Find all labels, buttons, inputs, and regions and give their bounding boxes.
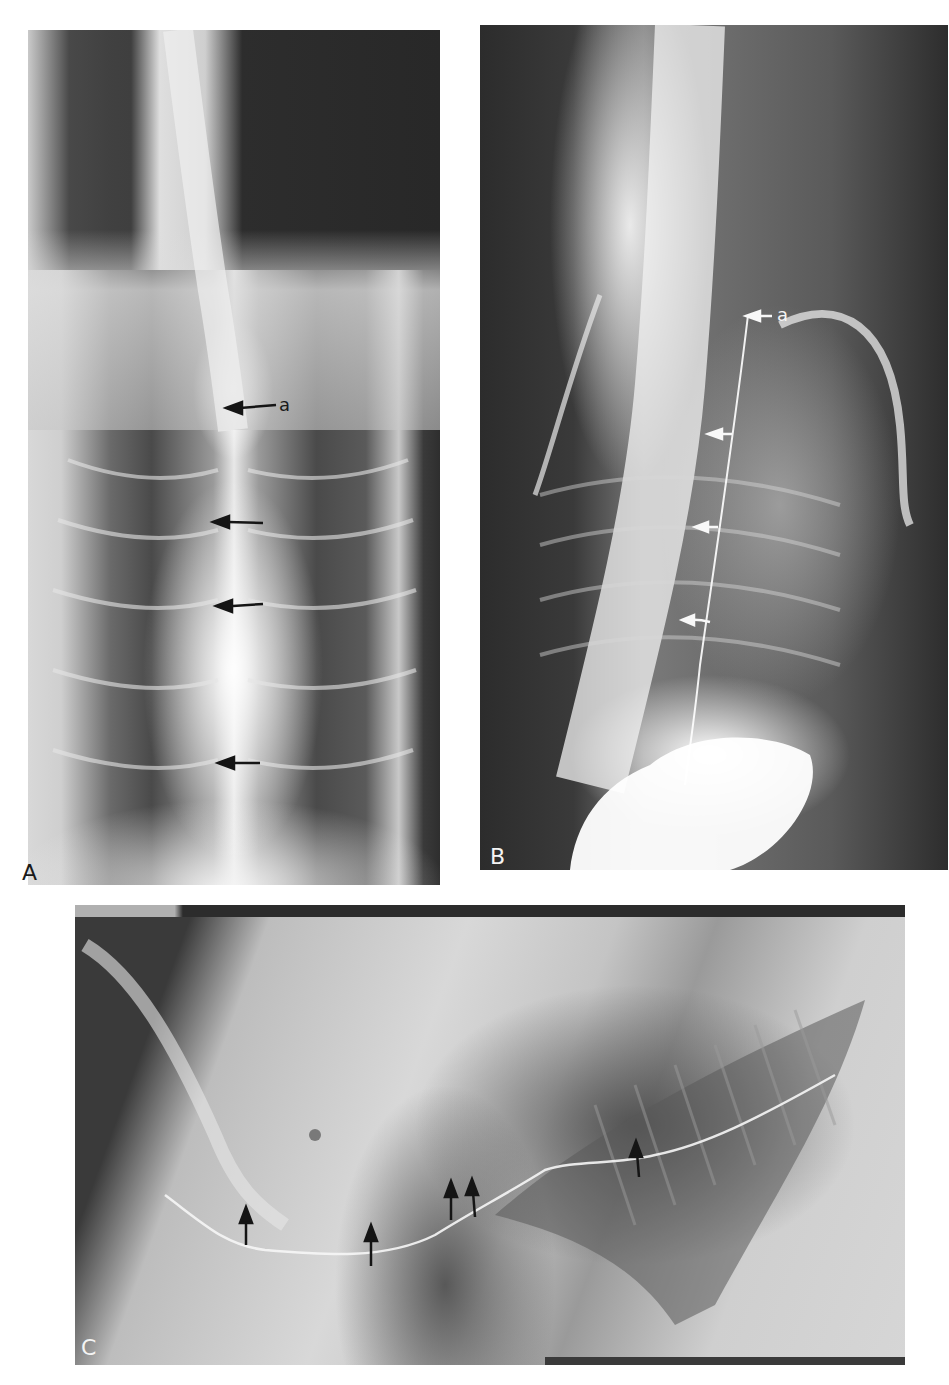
annotation-label-a: a [777, 306, 788, 324]
panel-label-c: C [81, 1337, 96, 1359]
annotation-label-a: a [279, 396, 290, 414]
radiograph-panel-b: a B [480, 25, 948, 870]
panel-label-b: B [490, 846, 505, 868]
panel-a-overlay [28, 30, 440, 885]
radiograph-panel-a: a [28, 30, 440, 885]
arrow-icon [213, 402, 276, 769]
panel-label-a: A [22, 862, 37, 884]
panel-b-overlay [480, 25, 948, 870]
panel-c-overlay [75, 905, 905, 1365]
radiograph-panel-c: C [75, 905, 905, 1365]
